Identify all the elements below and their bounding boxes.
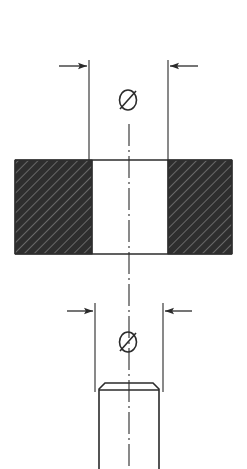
- die-block-left-half: [15, 160, 92, 254]
- drawing-viewport: [0, 0, 247, 469]
- technical-drawing-canvas: [0, 0, 247, 469]
- die-block-right-half: [168, 160, 232, 254]
